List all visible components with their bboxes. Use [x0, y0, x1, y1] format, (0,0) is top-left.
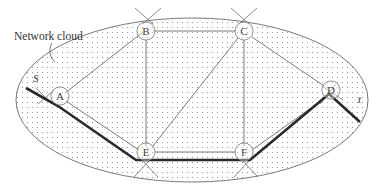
node-label-E: E — [143, 146, 150, 158]
network-cloud — [16, 18, 368, 182]
node-C[interactable]: C — [235, 22, 253, 40]
node-D[interactable]: D — [322, 81, 340, 99]
node-label-C: C — [240, 25, 247, 37]
node-F[interactable]: F — [235, 143, 253, 161]
node-label-A: A — [56, 90, 64, 102]
node-A[interactable]: A — [51, 87, 69, 105]
cloud-label: Network cloud — [14, 30, 83, 42]
source-label: S — [33, 72, 39, 84]
node-label-F: F — [241, 146, 247, 158]
node-label-D: D — [327, 84, 335, 96]
node-E[interactable]: E — [137, 143, 155, 161]
network-diagram: Network cloud A B C — [0, 0, 376, 186]
node-label-B: B — [142, 25, 149, 37]
node-B[interactable]: B — [137, 22, 155, 40]
